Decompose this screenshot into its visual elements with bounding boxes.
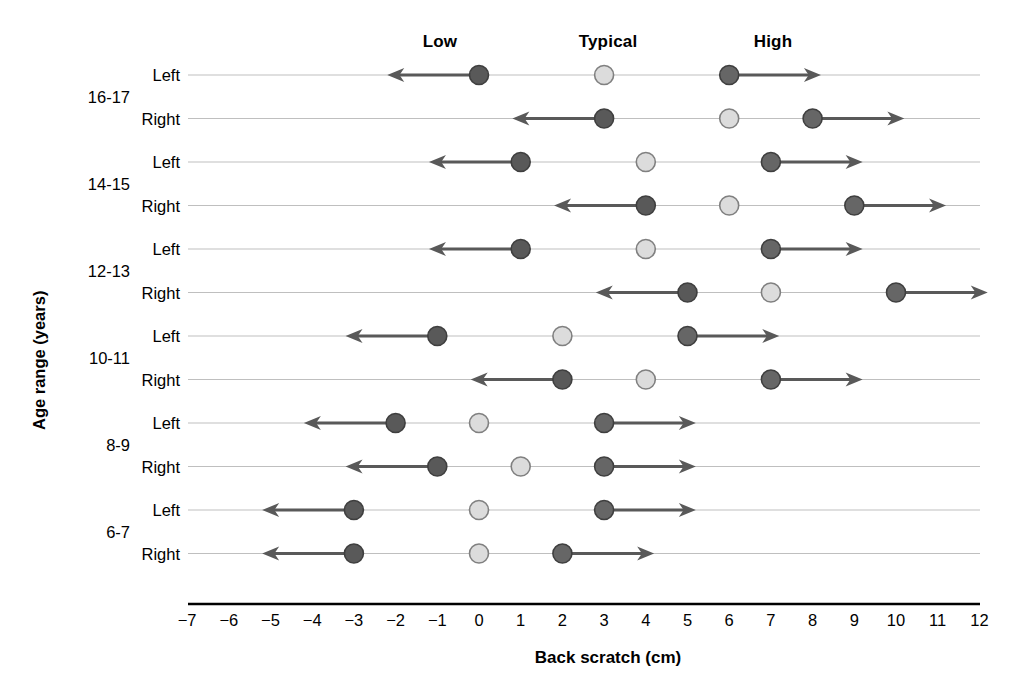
marker-high-10-11-right (761, 370, 780, 389)
arrow-low-14-15-left (429, 155, 521, 169)
marker-low-6-7-right (344, 544, 363, 563)
x-tick-4: 4 (641, 611, 650, 630)
y-axis-title: Age range (years) (30, 291, 49, 430)
arrow-low-12-13-right (596, 286, 688, 300)
x-tick-0: 0 (474, 611, 483, 630)
marker-typical-16-17-right (720, 109, 739, 128)
marker-low-16-17-right (595, 109, 614, 128)
x-tick-8: 8 (808, 611, 817, 630)
marker-low-14-15-left (511, 153, 530, 172)
arrow-high-14-15-left (771, 155, 863, 169)
arrow-low-16-17-right (512, 112, 604, 126)
arrow-high-10-11-right (771, 373, 863, 387)
arrow-high-14-15-right (854, 199, 946, 213)
x-tick-9: 9 (850, 611, 859, 630)
arrow-low-6-7-left (262, 503, 354, 517)
x-tick-5: 5 (683, 611, 692, 630)
arrow-low-8-9-right (346, 460, 438, 474)
marker-high-8-9-left (595, 414, 614, 433)
marker-low-16-17-left (470, 66, 489, 85)
marker-high-12-13-left (761, 240, 780, 259)
arrow-high-8-9-right (604, 460, 696, 474)
marker-low-12-13-right (678, 283, 697, 302)
marker-typical-12-13-left (636, 240, 655, 259)
marker-high-6-7-left (595, 501, 614, 520)
arrow-high-8-9-left (604, 416, 696, 430)
arrow-low-12-13-left (429, 242, 521, 256)
marker-high-10-11-left (678, 327, 697, 346)
marker-low-8-9-right (428, 457, 447, 476)
marker-high-14-15-left (761, 153, 780, 172)
marker-typical-10-11-left (553, 327, 572, 346)
marker-low-10-11-right (553, 370, 572, 389)
x-tick--6: −6 (219, 611, 238, 630)
x-tick-11: 11 (929, 611, 946, 630)
arrow-high-12-13-right (896, 286, 988, 300)
x-tick-12: 12 (970, 611, 988, 630)
marker-typical-14-15-left (636, 153, 655, 172)
marker-typical-8-9-left (470, 414, 489, 433)
back-scratch-chart: LowTypicalHigh 16-1714-1512-1310-118-96-… (0, 0, 1018, 698)
arrow-low-14-15-right (554, 199, 646, 213)
marker-high-14-15-right (845, 196, 864, 215)
arrow-low-10-11-right (471, 373, 563, 387)
x-tick-6: 6 (725, 611, 734, 630)
x-tick--5: −5 (261, 611, 280, 630)
x-tick-7: 7 (766, 611, 775, 630)
marker-typical-6-7-right (470, 544, 489, 563)
arrow-high-6-7-right (562, 547, 654, 561)
x-axis-title: Back scratch (cm) (535, 648, 681, 668)
x-tick--2: −2 (386, 611, 405, 630)
marker-low-8-9-left (386, 414, 405, 433)
x-tick-2: 2 (558, 611, 567, 630)
x-tick--7: −7 (178, 611, 197, 630)
marker-typical-8-9-right (511, 457, 530, 476)
arrow-low-10-11-left (346, 329, 438, 343)
marker-low-6-7-left (344, 501, 363, 520)
x-tick--3: −3 (344, 611, 363, 630)
x-tick-1: 1 (516, 611, 525, 630)
arrow-low-16-17-left (387, 68, 479, 82)
marker-typical-12-13-right (761, 283, 780, 302)
marker-typical-10-11-right (636, 370, 655, 389)
arrow-high-16-17-right (813, 112, 905, 126)
x-tick-3: 3 (600, 611, 609, 630)
arrow-high-16-17-left (729, 68, 821, 82)
marker-high-8-9-right (595, 457, 614, 476)
marker-typical-6-7-left (470, 501, 489, 520)
marker-low-14-15-right (636, 196, 655, 215)
arrow-high-6-7-left (604, 503, 696, 517)
marker-high-16-17-left (720, 66, 739, 85)
plot-area (0, 0, 1018, 698)
arrow-high-10-11-left (688, 329, 780, 343)
marker-high-12-13-right (887, 283, 906, 302)
arrow-high-12-13-left (771, 242, 863, 256)
arrow-low-6-7-right (262, 547, 354, 561)
marker-typical-16-17-left (595, 66, 614, 85)
marker-low-10-11-left (428, 327, 447, 346)
marker-low-12-13-left (511, 240, 530, 259)
marker-typical-14-15-right (720, 196, 739, 215)
x-tick--4: −4 (303, 611, 322, 630)
x-tick-10: 10 (887, 611, 905, 630)
marker-high-6-7-right (553, 544, 572, 563)
x-tick--1: −1 (428, 611, 447, 630)
arrow-low-8-9-left (304, 416, 396, 430)
marker-high-16-17-right (803, 109, 822, 128)
